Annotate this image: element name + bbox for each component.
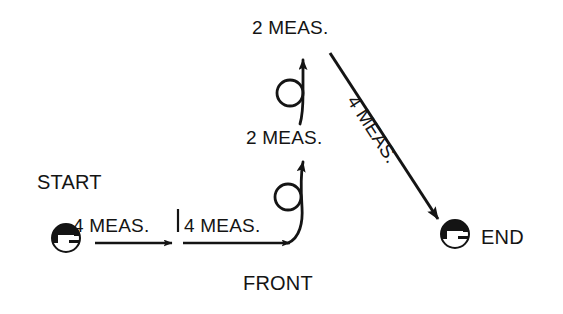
measure-label-segment-1: 4 MEAS. (73, 216, 149, 235)
measure-label-segment-2: 4 MEAS. (184, 216, 260, 235)
measure-label-segment-4: 2 MEAS. (252, 18, 328, 37)
measure-label-segment-3: 2 MEAS. (246, 128, 322, 147)
end-label: END (481, 227, 524, 247)
floor-pattern-diagram: START END FRONT 4 MEAS. 4 MEAS. 2 MEAS. … (0, 0, 563, 314)
floor-pattern-canvas (0, 0, 563, 314)
upper-turn-loop (277, 60, 303, 124)
lower-turn-loop (275, 162, 303, 243)
front-label: FRONT (243, 273, 313, 293)
end-dancer-icon (441, 218, 470, 248)
start-label: START (37, 172, 102, 192)
